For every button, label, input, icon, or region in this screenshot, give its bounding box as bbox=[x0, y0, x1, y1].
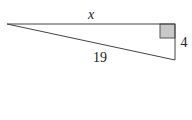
hypotenuse bbox=[7, 24, 175, 60]
right-angle-marker bbox=[160, 24, 175, 38]
triangle-diagram: x 4 19 bbox=[0, 0, 192, 120]
label-top-leg: x bbox=[87, 7, 95, 22]
label-right-leg: 4 bbox=[181, 35, 188, 50]
label-hypotenuse: 19 bbox=[93, 50, 107, 65]
